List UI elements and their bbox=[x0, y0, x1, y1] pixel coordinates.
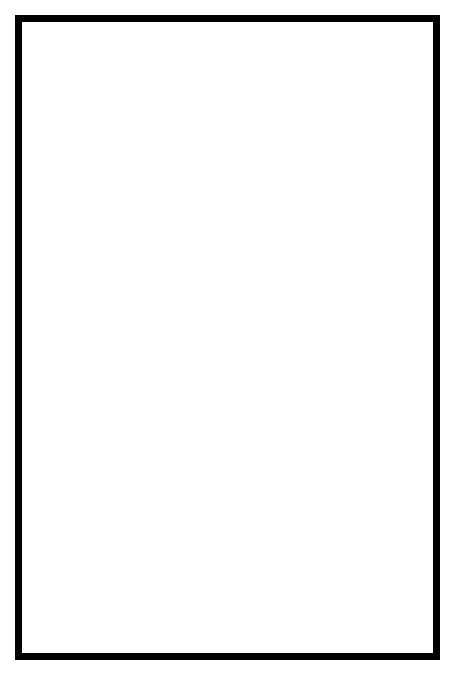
figure-root bbox=[0, 0, 461, 684]
plate-frame bbox=[15, 15, 440, 660]
panel-stack bbox=[22, 22, 433, 653]
